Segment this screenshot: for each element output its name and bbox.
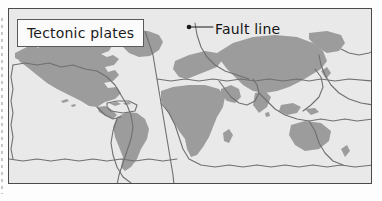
page-binding-marks [1,18,3,194]
fault-line-label: Fault line [215,21,280,37]
tectonic-plates-title-box: Tectonic plates [17,19,144,47]
tectonic-plates-figure: Fault line Tectonic plates [0,0,382,201]
tectonic-plates-title-text: Tectonic plates [27,25,134,41]
map-frame: Fault line Tectonic plates [8,8,372,184]
